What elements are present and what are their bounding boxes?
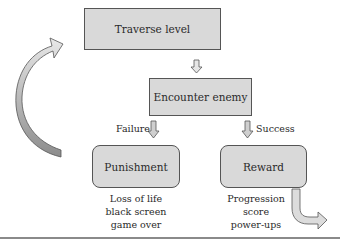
outcome-item: Progression <box>222 192 290 205</box>
encounter-enemy-node: Encounter enemy <box>149 78 252 116</box>
success-label: Success <box>256 123 295 134</box>
traverse-level-node: Traverse level <box>84 8 221 50</box>
bottom-divider <box>0 237 340 239</box>
failure-label: Failure <box>116 123 150 134</box>
outcome-item: score <box>222 205 290 218</box>
outcome-item: black screen <box>92 205 180 218</box>
loop-back-arrow-icon <box>16 38 63 157</box>
exit-arrow-icon <box>292 189 327 229</box>
down-arrow-icon <box>191 60 202 73</box>
reward-node: Reward <box>220 145 307 188</box>
outcome-item: power-ups <box>222 218 290 231</box>
punishment-node: Punishment <box>92 145 180 188</box>
outcome-item: game over <box>92 218 180 231</box>
outcome-item: Loss of life <box>92 192 180 205</box>
reward-outcomes: Progression score power-ups <box>222 192 290 231</box>
success-arrow-icon <box>242 121 253 138</box>
punishment-outcomes: Loss of life black screen game over <box>92 192 180 231</box>
